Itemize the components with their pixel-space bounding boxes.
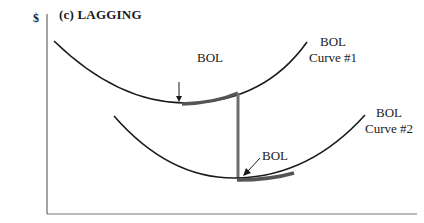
diagram-title: (c) LAGGING <box>59 7 142 23</box>
curve-1-operating-segment <box>182 93 238 104</box>
curve-2-label-line2: Curve #2 <box>365 121 413 137</box>
curve-1-label: BOL Curve #1 <box>309 34 357 66</box>
y-axis-unit: $ <box>33 11 39 26</box>
bol-arrow-2 <box>248 158 260 171</box>
bol-curve-1 <box>54 41 307 103</box>
curve-2-label: BOL Curve #2 <box>365 105 413 137</box>
diagram-canvas <box>0 0 424 223</box>
curve-1-label-line1: BOL <box>309 34 357 50</box>
bol-point-2-label: BOL <box>262 148 288 164</box>
bol-point-1-label: BOL <box>197 50 223 66</box>
arrow-head-down-icon <box>176 96 182 102</box>
curve-1-label-line2: Curve #1 <box>309 50 357 66</box>
curve-2-label-line1: BOL <box>365 105 413 121</box>
